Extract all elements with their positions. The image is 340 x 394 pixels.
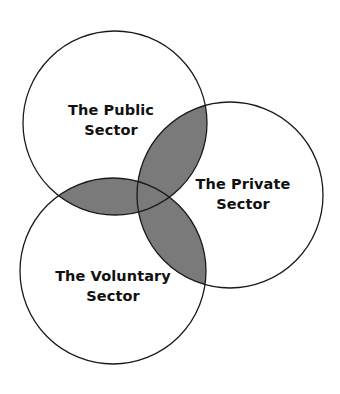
- label-private-line2: Sector: [216, 196, 270, 212]
- label-voluntary-line1: The Voluntary: [55, 268, 171, 284]
- label-private-line1: The Private: [196, 176, 291, 192]
- label-public-line1: The Public: [68, 102, 154, 118]
- label-voluntary-line2: Sector: [86, 288, 140, 304]
- venn-diagram: The Public Sector The Private Sector The…: [0, 0, 340, 394]
- label-public-line2: Sector: [84, 122, 138, 138]
